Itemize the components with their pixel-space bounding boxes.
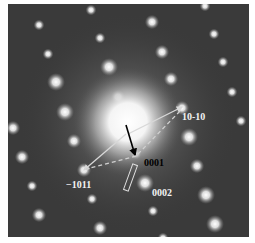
diffraction-spot — [27, 181, 38, 192]
diffraction-spot — [95, 33, 106, 44]
central-beam — [74, 68, 183, 177]
diffraction-spot — [93, 221, 107, 235]
diffraction-pattern: 10-10 0001 −1011 0002 — [8, 4, 249, 237]
diffraction-spot — [43, 49, 54, 60]
diffraction-spot — [218, 57, 229, 68]
diffraction-spot — [200, 4, 211, 11]
diffraction-spot — [197, 186, 215, 204]
label-0001: 0001 — [144, 158, 164, 168]
diffraction-spot — [180, 128, 198, 146]
diffraction-spot — [34, 20, 45, 31]
label-0002: 0002 — [152, 188, 172, 198]
diffraction-spot — [145, 15, 159, 29]
diffraction-spot — [227, 87, 238, 98]
diffraction-spot — [190, 159, 204, 173]
diffraction-spot — [47, 73, 65, 91]
label-minus1011: −1011 — [66, 180, 91, 190]
diffraction-spot — [32, 208, 46, 222]
label-10-10: 10-10 — [182, 112, 205, 122]
diffraction-spot — [236, 116, 247, 127]
diffraction-spot — [209, 29, 220, 40]
diffraction-spot — [155, 45, 169, 59]
diffraction-spot — [158, 233, 169, 237]
diffraction-spot — [15, 150, 29, 164]
diffraction-spot — [87, 194, 98, 205]
diffraction-spot — [56, 103, 74, 121]
diffraction-canvas — [8, 4, 249, 237]
diffraction-spot — [148, 206, 159, 217]
diffraction-spot — [86, 5, 97, 16]
diffraction-spot — [206, 215, 224, 233]
